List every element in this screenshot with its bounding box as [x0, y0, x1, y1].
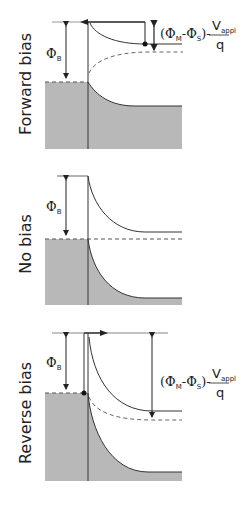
- phi-b-label: ΦB: [46, 46, 62, 63]
- svg-text:(ΦM-ΦS)-: (ΦM-ΦS)-: [160, 374, 211, 391]
- metal-region: [45, 82, 88, 149]
- svg-text:q: q: [216, 37, 224, 52]
- metal-region: [45, 239, 88, 305]
- arrow-left-icon: [80, 19, 88, 25]
- label-no-bias: No bias: [16, 214, 35, 274]
- arrow-right-icon: [100, 330, 108, 336]
- semiconductor-fill: [88, 82, 182, 149]
- phi-b-label: ΦB: [46, 355, 62, 372]
- svg-text:q: q: [216, 385, 224, 400]
- metal-region: [45, 393, 88, 467]
- phi-b-label: ΦB: [46, 199, 62, 216]
- conduction-band: [88, 176, 182, 232]
- panel-no-bias: No bias ΦB: [16, 176, 182, 305]
- panel-reverse-bias: Reverse bias ΦB (ΦM-ΦS)- Vappl q: [16, 330, 236, 481]
- expression-forward: (ΦM-ΦS)- Vappl q: [160, 18, 236, 52]
- expression-reverse: (ΦM-ΦS)- Vappl q: [160, 366, 236, 400]
- equilibrium-band: [89, 52, 183, 73]
- electron-dot: [82, 391, 87, 396]
- svg-text:Vappl: Vappl: [212, 18, 236, 35]
- panel-forward-bias: Forward bias ΦB (ΦM-ΦS)- Vappl q: [16, 18, 236, 149]
- semiconductor-fill: [88, 239, 182, 305]
- label-forward-bias: Forward bias: [16, 33, 35, 135]
- schottky-band-diagram: Forward bias ΦB (ΦM-ΦS)- Vappl q: [0, 0, 241, 506]
- electron-dot: [143, 42, 148, 47]
- svg-text:Vappl: Vappl: [212, 366, 236, 383]
- semiconductor-fill: [88, 393, 182, 481]
- svg-text:(ΦM-ΦS)-: (ΦM-ΦS)-: [160, 26, 211, 43]
- label-reverse-bias: Reverse bias: [16, 362, 35, 464]
